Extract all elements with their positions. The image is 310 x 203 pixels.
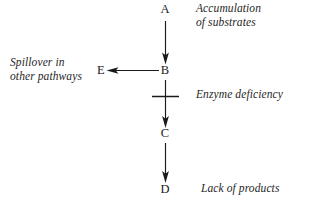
edge-a-to-b bbox=[162, 21, 169, 65]
pathway-diagram: A B C D E Accumulation of substrates Spi… bbox=[0, 0, 310, 203]
node-label-b: B bbox=[155, 64, 175, 77]
annotation-lack-of-products: Lack of products bbox=[201, 182, 279, 196]
node-label-d: D bbox=[155, 183, 175, 196]
annotation-enzyme-deficiency: Enzyme deficiency bbox=[196, 88, 283, 102]
annotation-spillover-in-other-pathways: Spillover in other pathways bbox=[10, 56, 82, 83]
node-label-e: E bbox=[91, 64, 111, 77]
edge-b-to-c bbox=[162, 80, 169, 128]
edge-b-to-e bbox=[107, 67, 160, 74]
arrow-layer bbox=[0, 0, 310, 203]
annotation-accumulation-of-substrates: Accumulation of substrates bbox=[196, 2, 261, 29]
edge-c-to-d bbox=[162, 143, 169, 183]
node-label-a: A bbox=[155, 3, 175, 16]
node-label-c: C bbox=[155, 127, 175, 140]
